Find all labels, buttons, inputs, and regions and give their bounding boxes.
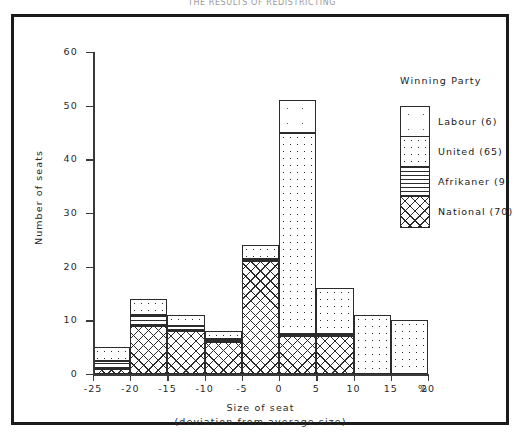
- x-axis-tick: [93, 374, 94, 381]
- bar-segment-afrikaner: [130, 315, 167, 326]
- bar-segment-labour: [279, 100, 316, 132]
- legend-swatch-column: [400, 106, 430, 228]
- bar-stack: [279, 100, 316, 374]
- legend-label-labour: Labour (6): [438, 116, 497, 127]
- legend: Winning Party Labour (6)United (65)Afrik…: [400, 75, 482, 100]
- bar-segment-afrikaner: [316, 334, 353, 337]
- bar-segment-afrikaner: [167, 326, 204, 331]
- x-axis-line: [93, 374, 428, 376]
- x-axis-subtitle: (deviation from average size): [73, 416, 448, 427]
- y-axis-tick-label: 10: [34, 314, 78, 325]
- bar-segment-united: [279, 133, 316, 334]
- x-axis-tick: [242, 374, 243, 381]
- bar-stack: [316, 288, 353, 374]
- bar-stack: [93, 347, 130, 374]
- y-axis-title: Number of seats: [33, 138, 44, 258]
- y-axis-tick-label: 60: [34, 46, 78, 57]
- legend-label-national: National (70): [438, 206, 513, 217]
- legend-title: Winning Party: [400, 75, 482, 86]
- plot-frame: 0102030405060 -25-20-15-10-505101520 Num…: [11, 14, 509, 425]
- bar-segment-national: [279, 336, 316, 374]
- bar-stack: [205, 331, 242, 374]
- legend-swatch-afrikaner[interactable]: [401, 167, 429, 197]
- bar-segment-united: [354, 315, 391, 374]
- bar-segment-united: [130, 299, 167, 315]
- y-axis-tick-label: 20: [34, 261, 78, 272]
- bar-segment-united: [205, 331, 242, 339]
- x-axis-tick: [391, 374, 392, 381]
- bar-segment-national: [130, 326, 167, 374]
- x-axis-tick: [316, 374, 317, 381]
- legend-swatch-labour[interactable]: [401, 107, 429, 137]
- x-axis-unit-label: %: [418, 383, 428, 394]
- legend-label-afrikaner: Afrikaner (9): [438, 176, 510, 187]
- x-axis-tick: [428, 374, 429, 381]
- y-axis-tick: [86, 106, 94, 107]
- bar-stack: [167, 315, 204, 374]
- legend-label-united: United (65): [438, 146, 503, 157]
- bar-stack: [242, 245, 279, 374]
- bar-segment-national: [167, 331, 204, 374]
- x-axis-tick: [130, 374, 131, 381]
- bar-segment-afrikaner: [93, 361, 130, 369]
- bar-segment-afrikaner: [242, 259, 279, 262]
- bar-segment-united: [242, 245, 279, 258]
- x-axis-tick: [354, 374, 355, 381]
- bar-segment-afrikaner: [279, 334, 316, 337]
- bar-stack: [130, 299, 167, 374]
- x-axis-title: Size of seat: [93, 402, 428, 413]
- bar-stack: [391, 320, 428, 374]
- y-axis-tick: [86, 267, 94, 268]
- y-axis-tick: [86, 320, 94, 321]
- x-axis-tick: [279, 374, 280, 381]
- legend-swatch-united[interactable]: [401, 137, 429, 167]
- bar-segment-national: [205, 342, 242, 374]
- y-axis-tick-label: 50: [34, 100, 78, 111]
- bar-segment-united: [167, 315, 204, 326]
- bar-segment-afrikaner: [205, 339, 242, 342]
- x-axis-tick: [167, 374, 168, 381]
- bar-segment-national: [242, 261, 279, 374]
- y-axis-tick: [86, 159, 94, 160]
- bar-segment-united: [391, 320, 428, 374]
- y-axis-tick: [86, 52, 94, 53]
- x-axis-tick: [205, 374, 206, 381]
- figure-title: THE RESULTS OF REDISTRICTING: [0, 0, 524, 7]
- y-axis-tick: [86, 213, 94, 214]
- bar-segment-united: [93, 347, 130, 360]
- bar-stack: [354, 315, 391, 374]
- bar-segment-united: [316, 288, 353, 334]
- y-axis-tick-label: 0: [34, 368, 78, 379]
- bar-segment-national: [316, 336, 353, 374]
- legend-swatch-national[interactable]: [401, 197, 429, 227]
